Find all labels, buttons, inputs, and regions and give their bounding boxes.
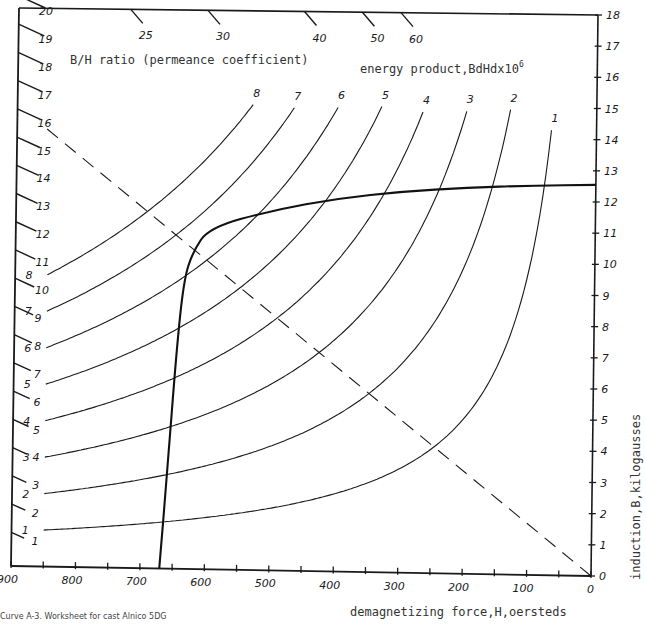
x-tick-label: 800	[61, 574, 82, 587]
energy-label-top: 7	[294, 90, 301, 103]
bh-tick-label: 20	[39, 5, 53, 18]
bh-tick-label: 2	[32, 507, 39, 520]
y-tick-label: 2	[600, 508, 607, 521]
bh-top-label: 60	[409, 33, 423, 46]
bh-tick-label: 19	[39, 33, 53, 46]
bh-tick	[16, 222, 37, 231]
bh-tick-label: 17	[38, 89, 52, 102]
y-tick-label: 9	[603, 290, 610, 303]
bh-tick-label: 16	[37, 117, 51, 130]
bh-tick-label: 15	[37, 145, 51, 158]
energy-product-labels-left: 12345678	[22, 269, 33, 537]
x-tick-label: 100	[513, 582, 534, 595]
bh-tick-label: 5	[33, 424, 40, 437]
bh-top-label: 40	[313, 32, 327, 45]
bh-tick	[13, 391, 29, 398]
bh-top-tick	[305, 12, 317, 26]
bh-tick-label: 3	[32, 479, 39, 492]
bh-tick	[14, 363, 31, 371]
y-axis-ticks	[588, 15, 602, 576]
y-tick-label: 10	[603, 258, 617, 271]
x-axis-labels: 9008007006005004003002001000	[0, 573, 594, 596]
energy-product-title: energy product,BdHdx106	[360, 60, 524, 76]
energy-curve-2	[44, 110, 510, 494]
left-bh-labels: 1234567891011121314151617181920	[31, 5, 53, 548]
bh-tick-label: 4	[33, 451, 40, 464]
energy-label-left: 3	[23, 451, 30, 464]
energy-label-top: 1	[552, 112, 559, 125]
y-tick-label: 3	[600, 477, 607, 490]
x-tick-label: 900	[0, 573, 18, 586]
bh-tick-label: 18	[38, 61, 52, 74]
top-bh-labels: 2530405060	[139, 29, 423, 45]
x-tick-label: 400	[319, 579, 340, 592]
y-tick-label: 12	[604, 196, 618, 209]
bh-top-label: 25	[139, 29, 153, 42]
energy-label-top: 8	[253, 87, 260, 100]
energy-label-top: 2	[511, 92, 518, 105]
bh-tick	[17, 165, 39, 175]
energy-label-left: 6	[24, 342, 31, 355]
bh-tick-label: 9	[35, 312, 42, 325]
x-tick-label: 0	[587, 583, 594, 596]
energy-label-left: 2	[22, 488, 29, 501]
energy-curve-1	[44, 130, 552, 530]
energy-label-left: 5	[24, 378, 31, 391]
y-tick-label: 1	[599, 539, 606, 552]
energy-product-curves	[44, 105, 552, 530]
x-axis-ticks	[11, 561, 591, 578]
bh-tick-label: 1	[31, 535, 38, 548]
y-tick-label: 6	[601, 383, 608, 396]
bh-tick-label: 6	[33, 396, 40, 409]
x-tick-label: 500	[255, 577, 276, 590]
demagnetization-chart: 1234567891011121314151617181920 25304050…	[0, 0, 646, 626]
bh-tick-label: 12	[36, 228, 50, 241]
top-border	[19, 8, 598, 15]
x-tick-label: 700	[126, 575, 147, 588]
energy-label-left: 8	[25, 269, 32, 282]
y-tick-label: 16	[605, 71, 619, 84]
x-tick-label: 200	[448, 581, 469, 594]
y-tick-label: 15	[605, 103, 619, 116]
bh-tick-label: 14	[37, 172, 51, 185]
bh-top-tick	[401, 13, 413, 27]
energy-curve-8	[47, 105, 253, 275]
y-tick-label: 4	[601, 445, 608, 458]
energy-product-exponent: 6	[519, 60, 524, 69]
y-tick-label: 5	[601, 414, 608, 427]
y-tick-label: 14	[604, 134, 618, 147]
energy-curve-4	[45, 112, 423, 421]
energy-label-left: 4	[23, 415, 30, 428]
energy-product-labels-top: 12345678	[253, 87, 558, 126]
y-tick-label: 18	[606, 9, 620, 22]
bh-top-tick	[131, 9, 143, 23]
energy-label-top: 3	[467, 93, 474, 106]
y-tick-label: 17	[606, 40, 620, 53]
energy-curve-6	[46, 108, 338, 348]
bh-tick-label: 11	[35, 256, 49, 269]
y-axis-title: induction,B,kilogausses	[629, 414, 643, 580]
bh-tick-label: 7	[34, 368, 41, 381]
bh-top-tick	[362, 12, 374, 26]
y-tick-label: 8	[602, 321, 609, 334]
energy-label-left: 1	[22, 524, 29, 537]
bh-tick	[15, 250, 35, 259]
y-tick-label: 0	[599, 570, 606, 583]
bh-tick	[12, 504, 25, 510]
energy-curve-7	[47, 108, 294, 311]
energy-label-top: 5	[382, 89, 389, 102]
energy-label-top: 4	[423, 94, 430, 107]
bh-ratio-title: B/H ratio (permeance coefficient)	[70, 53, 308, 67]
energy-label-top: 6	[338, 89, 345, 102]
bh-top-tick	[208, 10, 220, 24]
energy-label-left: 7	[25, 305, 32, 318]
x-tick-label: 600	[190, 576, 211, 589]
y-tick-label: 7	[602, 352, 609, 365]
x-axis-title: demagnetizing force,H,oersteds	[350, 605, 567, 619]
bh-tick	[16, 194, 37, 204]
energy-curve-3	[45, 111, 467, 457]
x-tick-label: 300	[384, 580, 405, 593]
y-axis-labels: 0123456789101112131415161718	[599, 9, 620, 583]
y-tick-label: 11	[603, 227, 617, 240]
bh-top-label: 50	[370, 32, 384, 45]
